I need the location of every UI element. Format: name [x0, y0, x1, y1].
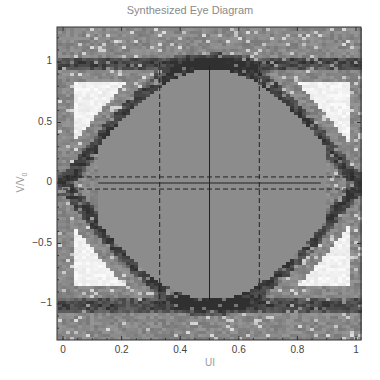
y-tick-label: 0 [14, 176, 52, 187]
x-tick-label: 1 [344, 344, 368, 355]
x-tick-label: 0 [51, 344, 75, 355]
x-tick-label: 0.2 [110, 344, 134, 355]
y-tick-label: 1 [14, 55, 52, 66]
x-tick-label: 0.8 [285, 344, 309, 355]
x-tick-label: 0.6 [227, 344, 251, 355]
y-tick-label: −0.5 [14, 237, 52, 248]
eye-diagram-plot [0, 0, 380, 380]
y-tick-label: −1 [14, 297, 52, 308]
x-tick-label: 0.4 [168, 344, 192, 355]
y-tick-label: 0.5 [14, 116, 52, 127]
